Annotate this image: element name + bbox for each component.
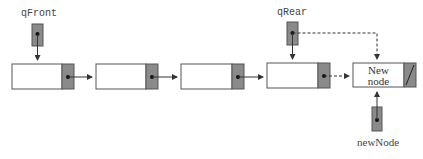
new-node-text: New node: [353, 65, 404, 87]
qrear-label: qRear: [277, 7, 307, 18]
qrear-pointer: [287, 22, 377, 59]
newnode-pointer: [372, 92, 382, 131]
newnode-label: newNode: [357, 136, 399, 148]
list-node-4: [267, 63, 349, 88]
new-node-text-line2: node: [353, 76, 404, 87]
qfront-label: qFront: [21, 8, 57, 19]
list-node-2: [96, 64, 177, 89]
list-node-3: [181, 64, 263, 89]
list-node-1: [12, 64, 92, 89]
qfront-pointer: [32, 24, 43, 60]
